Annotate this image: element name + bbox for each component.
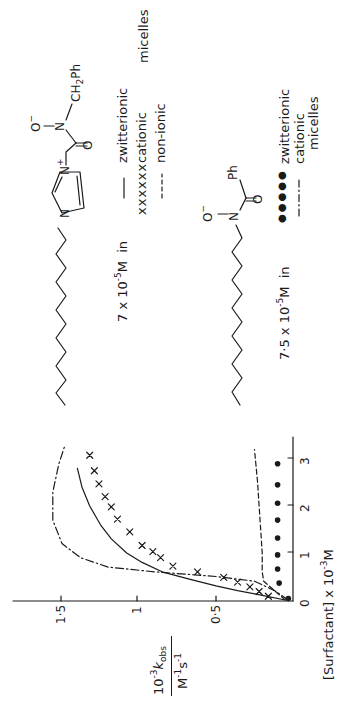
mol1-n-plus-label: N+ bbox=[59, 158, 71, 175]
cross-marker bbox=[127, 529, 133, 535]
dot-marker bbox=[286, 596, 292, 602]
mol1-o-carbonyl-label: O bbox=[82, 141, 94, 150]
legend1-cationic-label: cationic bbox=[135, 112, 148, 163]
series-zwitterionic-imidazolium-line bbox=[77, 468, 285, 600]
dot-marker bbox=[275, 461, 281, 467]
cross-marker bbox=[170, 563, 176, 569]
dot-marker bbox=[275, 566, 281, 572]
mol2-o-minus-label: O− bbox=[202, 205, 214, 222]
legend2-zwitterionic-label: zwitterionic bbox=[278, 89, 291, 164]
x-tick-label-2: 2 bbox=[299, 504, 311, 512]
legend1-micelles-label: micelles bbox=[137, 10, 150, 63]
cross-marker bbox=[91, 468, 97, 474]
cross-marker bbox=[87, 452, 93, 458]
cross-marker bbox=[139, 542, 145, 548]
cross-marker bbox=[150, 549, 156, 555]
mol1-o-minus-label: O− bbox=[30, 115, 42, 132]
cross-marker bbox=[235, 579, 241, 585]
mol1-n-amide-label: N bbox=[54, 122, 66, 131]
mol2-ph-label: Ph bbox=[227, 165, 239, 180]
mol1-ch2ph-label: CH2Ph bbox=[70, 64, 82, 102]
legend2-micelles-label: micelles bbox=[307, 97, 320, 150]
series-cationic-benzohydroxamate-line bbox=[53, 445, 289, 600]
molecule-2-alkyl-chain bbox=[232, 225, 242, 405]
molecule-1-alkyl-chain bbox=[56, 228, 66, 405]
cross-marker bbox=[195, 569, 201, 575]
legend1-zwitterionic-label: zwitterionic bbox=[116, 88, 129, 163]
cross-marker bbox=[114, 516, 120, 522]
legend2-cationic-label: cationic bbox=[293, 113, 306, 164]
cross-marker bbox=[247, 584, 253, 590]
legend1-nonionic-label: non-ionic bbox=[154, 103, 167, 163]
x-tick-label-3: 3 bbox=[299, 457, 311, 465]
legend1-crosses-marker: xxxxxx bbox=[135, 163, 148, 215]
y-axis-title-numerator: 10-3kobs bbox=[152, 646, 165, 695]
dot-marker bbox=[275, 517, 281, 523]
series-zwitterionic-benzohydroxamate-dots bbox=[275, 461, 291, 601]
y-tick-label-0.5: 0·5 bbox=[210, 605, 222, 624]
series-cationic-imidazolium-crosses bbox=[87, 452, 272, 599]
y-axis-title-fraction-bar bbox=[171, 636, 172, 696]
y-tick-label-1.5: 1·5 bbox=[55, 605, 67, 624]
cross-marker bbox=[108, 504, 114, 510]
dot-marker bbox=[275, 500, 281, 506]
mol1-n-ring-label: N bbox=[59, 209, 71, 218]
legend1-concentration: 7 x 10-5M in bbox=[116, 241, 129, 322]
cross-marker bbox=[158, 555, 164, 561]
cross-marker bbox=[102, 494, 108, 500]
dot-marker bbox=[276, 580, 282, 586]
chart-axes bbox=[13, 437, 293, 601]
dot-marker bbox=[275, 535, 281, 541]
x-tick-label-0: 0 bbox=[299, 599, 311, 607]
x-tick-label-1: 1 bbox=[299, 551, 311, 559]
y-tick-label-1: 1 bbox=[131, 606, 143, 614]
mol2-n-amide-label: N bbox=[228, 212, 240, 221]
legend2-dots-marker: ●●●●● bbox=[277, 169, 287, 223]
dot-marker bbox=[275, 482, 281, 488]
cross-marker bbox=[256, 589, 262, 595]
series-nonionic-imidazolium-line bbox=[255, 450, 286, 600]
mol2-o-carbonyl-label: O bbox=[252, 195, 264, 204]
dot-marker bbox=[275, 552, 281, 558]
y-axis-title-denominator: M-1s-1 bbox=[176, 653, 189, 689]
cross-marker bbox=[96, 481, 102, 487]
legend2-concentration: 7·5 x 10-5M in bbox=[278, 266, 291, 360]
x-axis-title: [Surfactant] x 10-3M bbox=[322, 549, 335, 680]
